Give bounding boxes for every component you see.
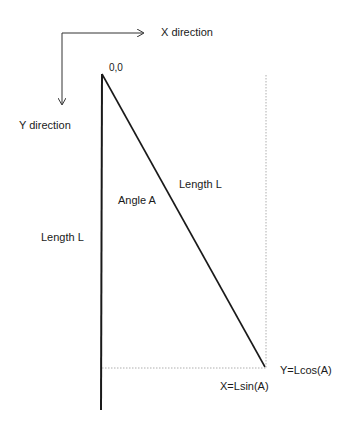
vertical-length-line [101, 74, 102, 410]
vertical-length-label: Length L [41, 232, 84, 243]
hypotenuse-length-label: Length L [179, 179, 222, 190]
angle-label: Angle A [118, 195, 156, 206]
origin-label: 0,0 [109, 63, 123, 73]
x-projection-label: X=Lsin(A) [220, 381, 269, 392]
y-direction-label: Y direction [19, 120, 71, 131]
hypotenuse-line [102, 74, 265, 367]
y-projection-label: Y=Lcos(A) [280, 365, 332, 376]
x-direction-label: X direction [161, 27, 213, 38]
